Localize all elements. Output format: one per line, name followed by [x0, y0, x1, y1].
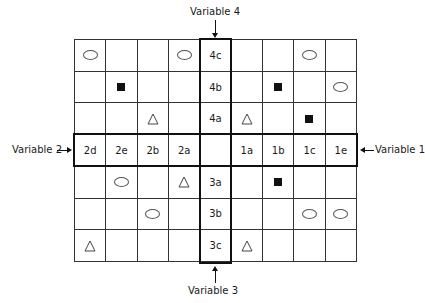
grid-cell: 3c [200, 230, 231, 262]
grid-cell [75, 199, 106, 231]
triangle-icon [241, 240, 253, 252]
oval-icon [302, 50, 317, 60]
grid-cell [326, 199, 357, 231]
grid-cell: 4a [200, 103, 231, 135]
grid-cell [263, 230, 294, 262]
cell-label: 1b [272, 145, 285, 156]
grid-cell [263, 72, 294, 104]
filled-square-icon [274, 178, 282, 186]
grid-cell: 4c [200, 40, 231, 72]
oval-icon [145, 209, 160, 219]
grid-cell: 1c [294, 135, 325, 167]
grid-cell [106, 199, 137, 231]
grid-cell [263, 199, 294, 231]
triangle-icon [147, 113, 159, 125]
triangle-icon [84, 240, 96, 252]
grid-cell [294, 40, 325, 72]
grid-cell [106, 72, 137, 104]
oval-icon [333, 82, 348, 92]
grid-cell [232, 199, 263, 231]
oval-icon [83, 50, 98, 60]
grid-cell [106, 103, 137, 135]
cell-label: 4c [210, 50, 222, 61]
grid-cell [106, 167, 137, 199]
grid-cell [138, 40, 169, 72]
grid-cell: 2a [169, 135, 200, 167]
triangle-icon [241, 113, 253, 125]
grid-cell: 3b [200, 199, 231, 231]
grid-cell [326, 40, 357, 72]
filled-square-icon [117, 83, 125, 91]
cell-label: 2d [84, 145, 97, 156]
variable-1-label: Variable 1 [375, 144, 425, 155]
grid-cell [294, 199, 325, 231]
grid-cell [232, 40, 263, 72]
grid-cell [263, 167, 294, 199]
grid-cell [169, 103, 200, 135]
cell-label: 2e [115, 145, 128, 156]
grid-cell: 1b [263, 135, 294, 167]
grid-cell [138, 199, 169, 231]
grid-cell [232, 230, 263, 262]
grid-cell [294, 103, 325, 135]
grid-cell [169, 167, 200, 199]
grid-cell [75, 230, 106, 262]
cell-label: 2a [178, 145, 191, 156]
grid-cell [138, 230, 169, 262]
grid-cell [75, 167, 106, 199]
filled-square-icon [274, 83, 282, 91]
triangle-icon [178, 176, 190, 188]
grid-cell [106, 230, 137, 262]
cell-label: 4a [209, 113, 222, 124]
grid-cell [326, 103, 357, 135]
grid-cell [169, 230, 200, 262]
filled-square-icon [305, 115, 313, 123]
design-grid: 4c4b4a2d2e2b2a1a1b1c1e3a3b3c [74, 39, 357, 262]
grid-cell [75, 72, 106, 104]
grid-cell [75, 40, 106, 72]
grid-cell [106, 40, 137, 72]
grid-cell [326, 72, 357, 104]
grid-cell [138, 72, 169, 104]
variable-4-label: Variable 4 [190, 6, 240, 17]
grid-cell [200, 135, 231, 167]
variable-2-label: Variable 2 [12, 144, 62, 155]
grid-cell [169, 72, 200, 104]
oval-icon [114, 177, 129, 187]
grid-cell [138, 167, 169, 199]
cell-label: 3a [209, 177, 222, 188]
grid-cell: 2d [75, 135, 106, 167]
grid-cell [326, 167, 357, 199]
cell-label: 1a [241, 145, 254, 156]
grid-cell: 4b [200, 72, 231, 104]
variable-3-label: Variable 3 [188, 285, 238, 296]
grid-cell: 1e [326, 135, 357, 167]
grid-cell: 3a [200, 167, 231, 199]
oval-icon [302, 209, 317, 219]
grid-cell [263, 40, 294, 72]
cell-label: 1e [335, 145, 348, 156]
cell-label: 2b [146, 145, 159, 156]
grid-cell: 1a [232, 135, 263, 167]
grid-cell: 2e [106, 135, 137, 167]
grid-cell [75, 103, 106, 135]
grid-cell: 2b [138, 135, 169, 167]
cell-label: 3c [210, 240, 222, 251]
grid-cell [232, 72, 263, 104]
grid-cell [294, 230, 325, 262]
cell-label: 3b [209, 208, 222, 219]
grid-cell [263, 103, 294, 135]
grid-cell [326, 230, 357, 262]
grid-cell [169, 199, 200, 231]
grid-cell [232, 167, 263, 199]
grid-cell [294, 167, 325, 199]
grid-cell [294, 72, 325, 104]
cell-label: 1c [304, 145, 316, 156]
grid-cell [138, 103, 169, 135]
cell-label: 4b [209, 82, 222, 93]
oval-icon [177, 50, 192, 60]
grid-cell [232, 103, 263, 135]
grid-cell [169, 40, 200, 72]
oval-icon [333, 209, 348, 219]
